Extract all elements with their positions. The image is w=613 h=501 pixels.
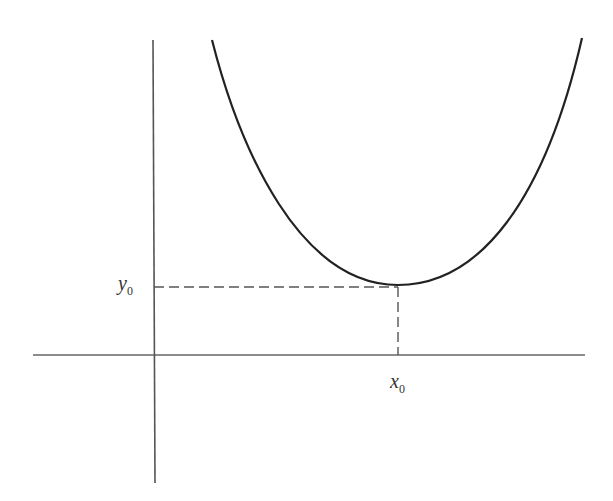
y0-label: y0 bbox=[118, 272, 133, 299]
y0-main: y bbox=[118, 272, 127, 294]
x0-subscript: 0 bbox=[399, 382, 405, 396]
x0-label: x0 bbox=[390, 370, 405, 397]
y-axis bbox=[153, 40, 155, 483]
diagram-canvas bbox=[0, 0, 613, 501]
x0-main: x bbox=[390, 370, 399, 392]
convex-curve bbox=[212, 38, 582, 285]
y0-subscript: 0 bbox=[127, 284, 133, 298]
